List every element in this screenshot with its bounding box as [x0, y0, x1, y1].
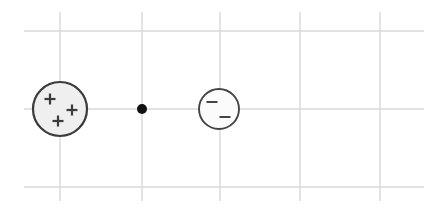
- diagram-svg: [0, 0, 441, 216]
- positive-charge-circle[interactable]: [33, 82, 87, 136]
- charge-diagram-canvas: [0, 0, 441, 216]
- field-point-dot[interactable]: [137, 104, 147, 114]
- negative-charge[interactable]: [199, 89, 239, 129]
- negative-charge-circle[interactable]: [199, 89, 239, 129]
- positive-charge[interactable]: [33, 82, 87, 136]
- field-point[interactable]: [137, 104, 147, 114]
